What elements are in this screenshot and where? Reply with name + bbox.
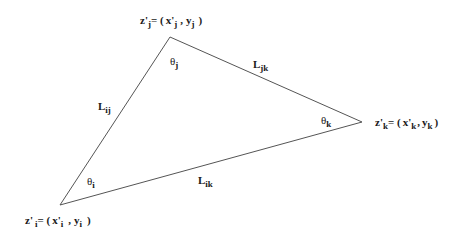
edge-ik [60, 122, 362, 205]
angle-theta-k: θk [321, 114, 331, 129]
vertex-k-label: z'k= (x'k,yk) [375, 116, 439, 131]
vertex-j-label: z'j= (x'j,yj) [140, 14, 202, 29]
triangle-diagram: z'j= (x'j,yj) z'k= (x'k,yk) z'i= (x'i,yi… [0, 0, 468, 240]
edge-jk [170, 37, 362, 122]
edge-label-L-ik: Lik [198, 174, 213, 189]
edge-label-L-ij: Lij [98, 100, 111, 115]
angle-theta-i: θi [87, 175, 95, 190]
edge-label-L-jk: Ljk [253, 58, 268, 73]
vertex-i-label: z'i= (x'i,yi) [25, 214, 91, 229]
angle-theta-j: θj [170, 55, 178, 70]
